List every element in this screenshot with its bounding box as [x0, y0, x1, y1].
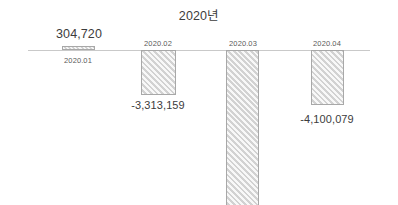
- bar-2020-02[interactable]: [141, 50, 176, 95]
- bar-category-label-2020-04: 2020.04: [297, 39, 357, 48]
- bar-value-label-2020-02: -3,313,159: [112, 99, 204, 111]
- bar-category-label-2020-03: 2020.03: [213, 39, 273, 48]
- bar-category-label-2020-01: 2020.01: [48, 56, 108, 65]
- bar-chart: 2020년 304,720 2020.01 2020.02 -3,313,159…: [0, 0, 398, 205]
- bar-category-label-2020-02: 2020.02: [128, 39, 188, 48]
- bar-2020-03[interactable]: [226, 50, 259, 205]
- bar-value-label-2020-01: 304,720: [39, 27, 119, 41]
- bar-2020-01[interactable]: [62, 46, 95, 50]
- bar-2020-04[interactable]: [311, 50, 344, 105]
- plot-area: 304,720 2020.01 2020.02 -3,313,159 2020.…: [0, 0, 398, 205]
- bar-value-label-2020-04: -4,100,079: [281, 113, 373, 125]
